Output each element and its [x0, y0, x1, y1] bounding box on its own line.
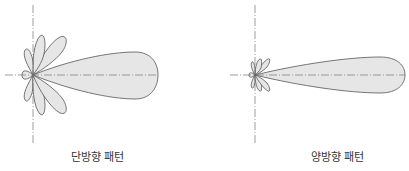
bidirectional-label: 양방향 패턴	[311, 148, 365, 164]
unidirectional-label: 단방향 패턴	[71, 148, 125, 164]
main-lobe	[255, 57, 405, 93]
radiation-patterns-diagram	[0, 0, 409, 171]
